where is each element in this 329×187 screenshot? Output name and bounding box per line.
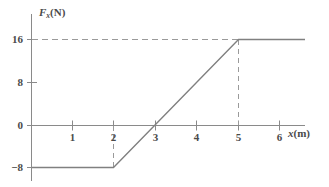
x-tick-label-3: 3 (145, 132, 166, 143)
y-axis-title: Fx(N) (39, 7, 65, 18)
x-tick-label-1: 1 (62, 132, 83, 143)
y-tick-label-16: 16 (0, 34, 23, 45)
force-curve (32, 40, 305, 168)
y-tick-label-8: 8 (0, 77, 23, 88)
y-axis-title-unit: (N) (50, 6, 65, 18)
x-tick-label-5: 5 (228, 132, 249, 143)
y-tick-label-0: 0 (0, 120, 23, 131)
x-tick-label-2: 2 (103, 132, 124, 143)
y-tick-label-neg8: −8 (0, 162, 23, 173)
plot-canvas (0, 0, 329, 187)
x-tick-label-4: 4 (186, 132, 207, 143)
x-axis-title-unit: (m) (294, 127, 311, 139)
x-axis-title: x(m) (288, 128, 310, 139)
force-position-graph: Fx(N) x(m) 16 8 0 −8 1 2 3 4 5 6 (0, 0, 329, 187)
x-tick-label-6: 6 (269, 132, 290, 143)
y-axis-title-subscript: x (46, 11, 50, 20)
